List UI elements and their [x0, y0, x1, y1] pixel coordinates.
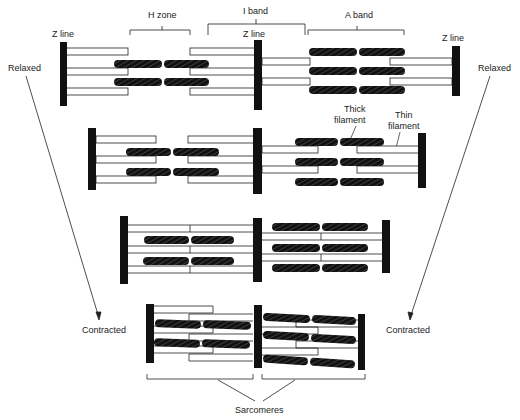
sarcomere-contraction-diagram: H zone I band A band Z line Z line Z lin…: [0, 0, 520, 420]
z-line: [358, 314, 365, 370]
label-h-zone: H zone: [148, 10, 177, 20]
label-z-line-left: Z line: [52, 29, 74, 39]
label-i-band: I band: [243, 6, 268, 16]
sarcomere-row-3: [120, 216, 390, 284]
label-z-line-mid: Z line: [243, 29, 265, 39]
label-a-band: A band: [345, 10, 373, 20]
arrow-right: [408, 76, 490, 320]
sarcomere-row-4: [146, 304, 365, 370]
z-line: [88, 128, 96, 190]
z-line: [60, 42, 67, 106]
z-line: [418, 133, 426, 188]
z-line: [254, 40, 262, 110]
z-line: [254, 305, 262, 368]
label-z-line-right: Z line: [442, 33, 464, 43]
bracket-h-zone: [130, 26, 190, 35]
z-line: [253, 218, 262, 282]
z-line: [120, 216, 128, 284]
label-contracted-left: Contracted: [82, 325, 126, 335]
z-line: [452, 46, 460, 96]
z-line: [146, 304, 154, 363]
label-thick-filament-2: filament: [334, 115, 366, 125]
arrow-left: [26, 76, 101, 320]
z-line: [253, 128, 262, 194]
z-line: [382, 220, 390, 273]
bracket-sarcomeres: [147, 374, 365, 401]
label-thin-filament: Thin: [395, 110, 413, 120]
label-thick-filament: Thick: [344, 104, 366, 114]
label-contracted-right: Contracted: [386, 325, 430, 335]
label-relaxed-left: Relaxed: [8, 63, 41, 73]
sarcomere-row-1: [60, 40, 460, 110]
label-thin-filament-2: filament: [388, 121, 420, 131]
bracket-a-band: [308, 26, 404, 35]
label-sarcomeres: Sarcomeres: [235, 405, 284, 415]
sarcomere-row-2: Thick filament Thin filament: [88, 104, 426, 194]
label-relaxed-right: Relaxed: [478, 63, 511, 73]
